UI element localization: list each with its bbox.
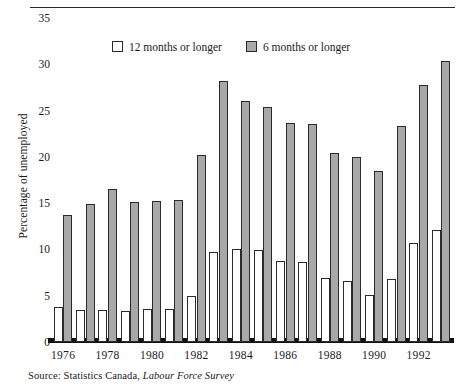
chart-figure: Percentage of unemployed 05101520253035 … <box>0 0 462 391</box>
y-tick-0: 0 <box>16 337 50 347</box>
x-tick-1982: 1982 <box>176 349 216 361</box>
bar-12-months-1993 <box>432 230 441 342</box>
bar-12-months-1983 <box>209 252 218 342</box>
bar-6-months-1984 <box>241 101 250 342</box>
source-prefix: Source: Statistics Canada, <box>28 370 140 381</box>
y-axis-ticks: 05101520253035 <box>12 0 50 391</box>
bar-12-months-1978 <box>98 310 107 342</box>
bar-group <box>365 18 384 342</box>
bar-group <box>232 18 251 342</box>
bar-12-months-1977 <box>76 310 85 342</box>
bar-12-months-1985 <box>254 250 263 342</box>
bar-6-months-1977 <box>86 204 95 342</box>
x-tick-1988: 1988 <box>310 349 350 361</box>
legend-item-2: 6 months or longer <box>246 41 350 53</box>
bar-group <box>121 18 140 342</box>
x-tick-1984: 1984 <box>221 349 261 361</box>
bar-12-months-1982 <box>187 296 196 342</box>
bar-group <box>165 18 184 342</box>
bar-12-months-1991 <box>387 279 396 342</box>
bar-6-months-1988 <box>330 153 339 342</box>
x-tick-1986: 1986 <box>265 349 305 361</box>
header-rule <box>30 7 455 8</box>
x-tick-1992: 1992 <box>399 349 439 361</box>
bar-group <box>187 18 206 342</box>
top-cutoff-caption <box>34 0 434 3</box>
bar-12-months-1984 <box>232 249 241 342</box>
y-tick-5: 5 <box>16 291 50 301</box>
bar-group <box>387 18 406 342</box>
bar-6-months-1993 <box>441 61 450 342</box>
plot-area <box>52 18 452 342</box>
y-tick-20: 20 <box>16 152 50 162</box>
bar-12-months-1990 <box>365 295 374 342</box>
y-tick-25: 25 <box>16 106 50 116</box>
bar-group <box>409 18 428 342</box>
bar-12-months-1987 <box>298 262 307 342</box>
bar-group <box>276 18 295 342</box>
bar-12-months-1992 <box>409 243 418 342</box>
chart-legend: 12 months or longer6 months or longer <box>0 40 462 53</box>
y-tick-35: 35 <box>16 13 50 23</box>
legend-label-2: 6 months or longer <box>263 41 350 53</box>
x-tick-1980: 1980 <box>132 349 172 361</box>
bar-group <box>298 18 317 342</box>
bar-6-months-1989 <box>352 157 361 342</box>
bar-6-months-1983 <box>219 81 228 342</box>
bar-6-months-1981 <box>174 200 183 342</box>
y-tick-30: 30 <box>16 59 50 69</box>
bar-12-months-1981 <box>165 309 174 342</box>
bar-12-months-1979 <box>121 311 130 342</box>
source-note: Source: Statistics Canada, Labour Force … <box>28 370 234 381</box>
y-tick-15: 15 <box>16 198 50 208</box>
bar-group <box>343 18 362 342</box>
bar-group <box>54 18 73 342</box>
bar-6-months-1991 <box>397 126 406 342</box>
bar-6-months-1990 <box>374 171 383 342</box>
legend-label-1: 12 months or longer <box>129 41 222 53</box>
bar-group <box>209 18 228 342</box>
bar-6-months-1985 <box>263 107 272 342</box>
bar-6-months-1980 <box>152 201 161 342</box>
x-tick-1990: 1990 <box>354 349 394 361</box>
white-square-icon <box>112 41 123 52</box>
bar-group <box>321 18 340 342</box>
bar-6-months-1992 <box>419 85 428 342</box>
source-publication: Labour Force Survey <box>143 370 234 381</box>
bar-6-months-1976 <box>63 215 72 342</box>
x-tick-1978: 1978 <box>88 349 128 361</box>
bar-6-months-1986 <box>286 123 295 342</box>
bar-group <box>143 18 162 342</box>
bar-group <box>76 18 95 342</box>
bar-6-months-1982 <box>197 155 206 342</box>
bar-12-months-1980 <box>143 309 152 342</box>
bar-6-months-1978 <box>108 189 117 342</box>
x-tick-1976: 1976 <box>43 349 83 361</box>
bar-group <box>98 18 117 342</box>
y-tick-10: 10 <box>16 244 50 254</box>
bar-6-months-1987 <box>308 124 317 342</box>
bar-group <box>432 18 451 342</box>
bar-12-months-1976 <box>54 307 63 342</box>
bar-6-months-1979 <box>130 202 139 342</box>
bar-group <box>254 18 273 342</box>
legend-item-1: 12 months or longer <box>112 41 222 53</box>
grey-square-icon <box>246 41 257 52</box>
bar-12-months-1988 <box>321 278 330 342</box>
bar-12-months-1986 <box>276 261 285 342</box>
bar-12-months-1989 <box>343 281 352 342</box>
